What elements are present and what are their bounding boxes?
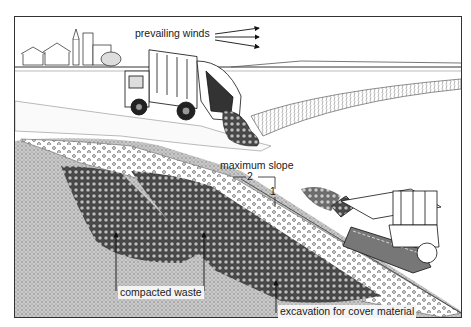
compacted-waste-label: compacted waste — [118, 286, 204, 299]
village — [21, 29, 121, 66]
prevailing-winds-label: prevailing winds — [135, 28, 210, 39]
horizon — [15, 61, 461, 71]
slope-vertical-value: 1 — [270, 186, 276, 197]
refuse-truck — [125, 50, 241, 121]
wind-arrows — [215, 28, 259, 47]
embankment — [251, 79, 461, 136]
excavation-label: excavation for cover material — [278, 305, 416, 318]
maximum-slope-label: maximum slope — [220, 160, 294, 171]
slope-horizontal-value: 2 — [247, 171, 253, 182]
